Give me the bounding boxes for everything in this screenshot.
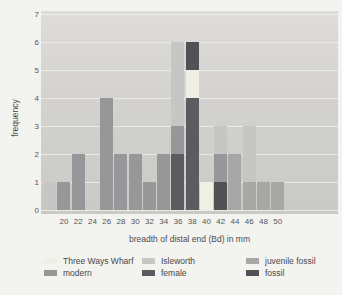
bar-50mm	[271, 182, 284, 210]
bar-segment-modern	[72, 154, 85, 210]
legend-item-juvenile_fossil: juvenile fossil	[246, 256, 316, 266]
bar-segment-three_ways_wharf	[200, 182, 213, 210]
y-tick-label-1: 1	[17, 178, 39, 187]
legend-swatch-three_ways_wharf	[44, 258, 57, 264]
bar-segment-modern	[157, 154, 170, 210]
bar-segment-isleworth	[214, 126, 227, 154]
y-tick-label-6: 6	[17, 38, 39, 47]
bar-segment-female	[186, 98, 199, 210]
legend-item-isleworth: Isleworth	[142, 256, 195, 266]
bar-segment-modern	[129, 154, 142, 210]
bar-44mm	[228, 154, 241, 210]
bar-segment-modern	[100, 98, 113, 210]
bar-46mm	[243, 126, 256, 210]
legend-label-modern: modern	[63, 268, 92, 278]
chart-figure: frequency breadth of distal end (Bd) in …	[0, 0, 342, 295]
gridline-y0	[41, 210, 338, 211]
bar-segment-female	[171, 154, 184, 210]
x-tick-label-50: 50	[268, 217, 288, 226]
bar-38mm	[186, 42, 199, 210]
bar-20mm	[57, 182, 70, 210]
bar-18mm	[43, 182, 56, 210]
bar-32mm	[143, 182, 156, 210]
bar-segment-modern	[57, 182, 70, 210]
bar-segment-modern	[171, 126, 184, 154]
bar-segment-modern	[214, 154, 227, 182]
legend-swatch-juvenile_fossil	[246, 258, 259, 264]
bar-48mm	[257, 182, 270, 210]
legend-label-juvenile_fossil: juvenile fossil	[265, 256, 316, 266]
y-tick-label-2: 2	[17, 150, 39, 159]
bar-segment-isleworth	[43, 182, 56, 210]
legend-swatch-modern	[44, 270, 57, 276]
legend-item-three_ways_wharf: Three Ways Wharf	[44, 256, 134, 266]
bar-28mm	[114, 154, 127, 210]
bar-40mm	[200, 182, 213, 210]
legend-swatch-female	[142, 270, 155, 276]
bar-segment-modern	[114, 154, 127, 210]
bar-segment-isleworth	[243, 126, 256, 182]
legend-label-isleworth: Isleworth	[161, 256, 195, 266]
bar-segment-juvenile_fossil	[257, 182, 270, 210]
x-axis-title: breadth of distal end (Bd) in mm	[41, 234, 338, 244]
bar-26mm	[100, 98, 113, 210]
bar-22mm	[72, 154, 85, 210]
y-tick-label-4: 4	[17, 94, 39, 103]
bar-segment-juvenile_fossil	[271, 182, 284, 210]
bar-segment-juvenile_fossil	[243, 182, 256, 210]
bar-segment-fossil	[214, 182, 227, 210]
legend-item-modern: modern	[44, 268, 92, 278]
legend-item-female: female	[142, 268, 187, 278]
bar-segment-fossil	[186, 42, 199, 70]
y-tick-label-5: 5	[17, 66, 39, 75]
bar-segment-juvenile_fossil	[228, 154, 241, 210]
legend-label-fossil: fossil	[265, 268, 284, 278]
legend-swatch-isleworth	[142, 258, 155, 264]
bar-42mm	[214, 126, 227, 210]
bar-segment-modern	[143, 182, 156, 210]
bar-30mm	[129, 154, 142, 210]
legend-swatch-fossil	[246, 270, 259, 276]
bar-34mm	[157, 154, 170, 210]
legend-label-female: female	[161, 268, 187, 278]
y-tick-label-7: 7	[17, 10, 39, 19]
bar-segment-three_ways_wharf	[186, 70, 199, 98]
y-tick-label-0: 0	[17, 206, 39, 215]
legend-label-three_ways_wharf: Three Ways Wharf	[63, 256, 134, 266]
plot-area	[41, 11, 338, 214]
y-tick-label-3: 3	[17, 122, 39, 131]
bar-36mm	[171, 42, 184, 210]
bar-segment-isleworth	[171, 42, 184, 126]
gridline-y7	[41, 14, 338, 15]
legend-item-fossil: fossil	[246, 268, 284, 278]
